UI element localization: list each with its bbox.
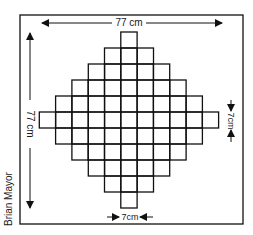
quilt-square <box>72 112 88 128</box>
quilt-square <box>153 112 169 128</box>
width-dimension-arrow: 77 cm <box>42 17 222 28</box>
height-label: 77 cm <box>25 110 36 137</box>
quilt-square <box>153 80 169 96</box>
quilt-square <box>121 96 137 112</box>
quilt-square <box>137 80 153 96</box>
quilt-square <box>153 128 169 144</box>
quilt-square <box>137 160 153 176</box>
quilt-square <box>105 96 121 112</box>
quilt-square <box>72 96 88 112</box>
quilt-square <box>72 144 88 160</box>
quilt-square <box>137 144 153 160</box>
quilt-square <box>105 48 121 64</box>
quilt-square <box>105 176 121 192</box>
quilt-square <box>88 128 104 144</box>
quilt-square <box>137 112 153 128</box>
quilt-square <box>88 144 104 160</box>
square-height-arrow: 7cm <box>226 100 236 142</box>
quilt-square <box>153 64 169 80</box>
quilt-square <box>170 144 186 160</box>
quilt-square <box>105 160 121 176</box>
quilt-square <box>88 80 104 96</box>
quilt-square <box>105 80 121 96</box>
diamond-grid <box>39 32 218 208</box>
quilt-square <box>72 80 88 96</box>
quilt-square <box>88 96 104 112</box>
quilt-square <box>121 48 137 64</box>
quilt-square <box>56 128 72 144</box>
quilt-square <box>137 128 153 144</box>
quilt-square <box>121 144 137 160</box>
quilt-square <box>170 80 186 96</box>
quilt-square <box>105 144 121 160</box>
quilt-square <box>153 96 169 112</box>
credit-text: Brian Mayor <box>3 171 14 226</box>
quilt-square <box>153 160 169 176</box>
quilt-square <box>137 48 153 64</box>
height-dimension-arrow: 77 cm <box>25 33 36 208</box>
quilt-square <box>88 160 104 176</box>
quilt-square <box>170 96 186 112</box>
quilt-square <box>56 112 72 128</box>
quilt-square <box>186 128 202 144</box>
quilt-square <box>121 80 137 96</box>
quilt-square <box>170 112 186 128</box>
quilt-square <box>153 144 169 160</box>
quilt-square <box>137 96 153 112</box>
square-height-label: 7cm <box>226 112 236 129</box>
quilt-square <box>137 176 153 192</box>
quilt-square <box>56 96 72 112</box>
quilt-square <box>121 64 137 80</box>
quilt-square <box>121 112 137 128</box>
quilt-square <box>72 128 88 144</box>
quilt-square <box>88 64 104 80</box>
quilt-square <box>88 112 104 128</box>
square-width-label: 7cm <box>121 212 138 222</box>
quilt-square <box>121 192 137 208</box>
quilt-diagram: 77 cm 77 cm 7cm 7cm Brian Mayor <box>0 0 253 235</box>
quilt-square <box>39 112 55 128</box>
quilt-square <box>202 112 218 128</box>
quilt-square <box>105 112 121 128</box>
quilt-square <box>121 32 137 48</box>
quilt-square <box>137 64 153 80</box>
width-label: 77 cm <box>115 17 142 28</box>
quilt-square <box>186 112 202 128</box>
square-width-arrow: 7cm <box>107 212 153 222</box>
quilt-square <box>121 128 137 144</box>
quilt-square <box>170 128 186 144</box>
quilt-square <box>105 64 121 80</box>
quilt-square <box>121 160 137 176</box>
quilt-square <box>105 128 121 144</box>
quilt-square <box>186 96 202 112</box>
quilt-square <box>121 176 137 192</box>
